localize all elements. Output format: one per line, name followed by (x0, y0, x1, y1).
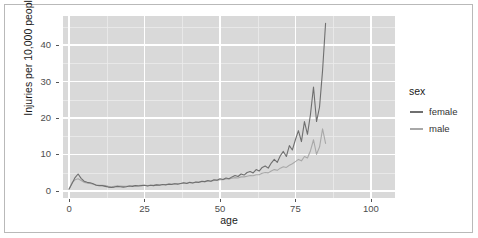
x-tick-mark (295, 199, 296, 202)
y-tick-mark (56, 82, 59, 83)
legend-item-female[interactable]: female (409, 104, 475, 119)
legend-label-female: female (429, 106, 458, 117)
legend-key-female (409, 104, 424, 119)
legend-items: femalemale (409, 104, 475, 136)
chart-screenshot: 010203040 Injuries per 10,000 people 025… (0, 0, 478, 238)
legend: sex femalemale (409, 85, 475, 138)
y-tick-mark (56, 45, 59, 46)
x-tick-label: 0 (54, 203, 84, 214)
x-tick-mark (144, 199, 145, 202)
x-tick-label: 25 (129, 203, 159, 214)
x-tick-mark (69, 199, 70, 202)
y-axis-title: Injuries per 10,000 people (22, 0, 34, 130)
legend-label-male: male (429, 123, 450, 134)
legend-swatch-female (410, 111, 423, 113)
y-tick-mark (56, 191, 59, 192)
x-tick-mark (371, 199, 372, 202)
y-tick-label: 0 (25, 185, 51, 196)
legend-key-male (409, 121, 424, 136)
y-tick-mark (56, 118, 59, 119)
series-layer (63, 16, 395, 198)
x-tick-label: 100 (356, 203, 386, 214)
x-tick-label: 75 (280, 203, 310, 214)
legend-title: sex (409, 85, 475, 97)
legend-item-male[interactable]: male (409, 121, 475, 136)
x-tick-label: 50 (205, 203, 235, 214)
plot-panel (63, 16, 395, 198)
image-frame: 010203040 Injuries per 10,000 people 025… (4, 4, 473, 233)
y-tick-label: 10 (25, 148, 51, 159)
y-tick-mark (56, 154, 59, 155)
series-line-male (69, 129, 326, 189)
x-tick-mark (220, 199, 221, 202)
series-line-female (69, 23, 326, 189)
x-axis-title: age (63, 214, 395, 226)
legend-swatch-male (410, 128, 423, 130)
